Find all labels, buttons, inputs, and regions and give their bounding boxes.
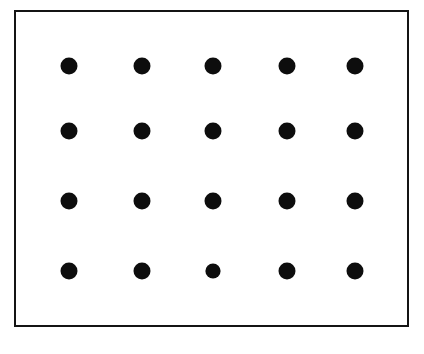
grid-dot-r4c4: [279, 263, 296, 280]
grid-dot-r4c2: [134, 263, 151, 280]
grid-dot-r3c3: [205, 193, 222, 210]
grid-dot-r1c2: [134, 58, 151, 75]
grid-dot-r3c5: [347, 193, 364, 210]
figure-svg: [0, 0, 424, 354]
dot-array-figure: [0, 0, 424, 354]
grid-dot-r4c3: [205, 263, 220, 278]
grid-dot-r2c2: [134, 123, 151, 140]
grid-dot-r1c3: [205, 58, 222, 75]
grid-dot-r3c2: [134, 193, 151, 210]
grid-dot-r3c4: [279, 193, 296, 210]
grid-dot-r4c5: [347, 263, 364, 280]
grid-dot-r1c1: [61, 58, 78, 75]
grid-dot-r2c5: [347, 123, 364, 140]
grid-dot-r2c4: [279, 123, 296, 140]
grid-dot-r1c5: [347, 58, 364, 75]
grid-dot-r1c4: [279, 58, 296, 75]
grid-dot-r2c1: [61, 123, 78, 140]
figure-background: [0, 0, 424, 354]
grid-dot-r2c3: [205, 123, 222, 140]
grid-dot-r4c1: [61, 263, 78, 280]
grid-dot-r3c1: [61, 193, 78, 210]
